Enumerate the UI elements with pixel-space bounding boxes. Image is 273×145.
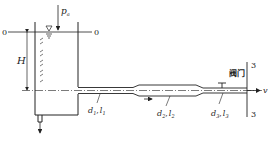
section-0-left-label: 0 — [2, 28, 7, 37]
wall-hatch — [40, 38, 43, 82]
tank — [35, 22, 78, 122]
velocity-label: v — [263, 86, 268, 95]
pipe3-label: d3,l3 — [211, 109, 229, 119]
valve-label: 阀门 — [229, 68, 245, 78]
section-3-top-label: 3 — [251, 61, 256, 70]
section-3-bottom-label: 3 — [251, 110, 256, 119]
leader-lines — [97, 93, 223, 106]
valve-icon — [218, 83, 226, 88]
pipe2-label: d2,l2 — [157, 109, 175, 119]
pipe-flow-diagram: 0 0 pa H 阀门 3 3 — [0, 0, 273, 145]
head-label: H — [16, 55, 26, 66]
pipe1-label: d1,l1 — [88, 106, 106, 116]
atm-pressure-label: pa — [61, 6, 70, 17]
section-0-right-label: 0 — [94, 28, 99, 37]
